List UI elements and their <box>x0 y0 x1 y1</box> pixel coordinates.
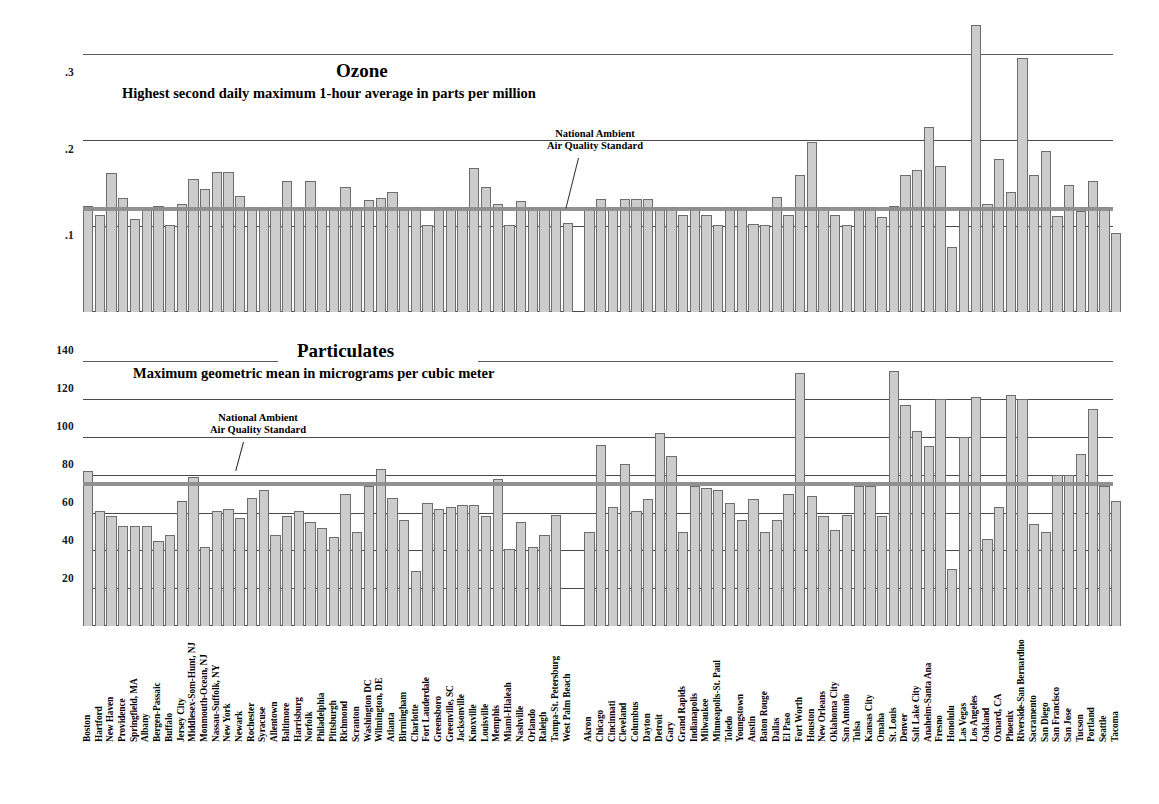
gridline-140 <box>83 361 1113 362</box>
category-label: Fort Worth <box>794 697 804 742</box>
bar <box>340 187 350 312</box>
bar <box>1111 501 1121 626</box>
bar <box>854 486 864 626</box>
category-label: Knoxville <box>468 704 478 742</box>
category-label: Kansas City <box>864 694 874 742</box>
category-label: Birmingham <box>398 692 408 742</box>
bar <box>912 431 922 626</box>
category-label: Seattle <box>1098 716 1108 742</box>
bar <box>411 207 421 312</box>
category-label: Cincinnati <box>607 701 617 742</box>
bar <box>188 179 198 312</box>
category-label: Tulsa <box>852 721 862 742</box>
category-label: Jacksonville <box>456 694 466 742</box>
category-label: Phoenix <box>1005 710 1015 742</box>
bar <box>481 516 491 626</box>
category-label: Gary <box>665 722 675 742</box>
category-label: Dallas <box>771 718 781 742</box>
category-label: Wilmington, DE <box>374 678 384 742</box>
category-label: New Haven <box>105 697 115 742</box>
bar <box>446 507 456 626</box>
category-label: Norfolk <box>304 711 314 742</box>
category-label: Providence <box>117 698 127 742</box>
bar <box>551 515 561 626</box>
category-label: Milwaukee <box>700 699 710 742</box>
part-ytick-120: 120 <box>28 383 74 395</box>
category-label: Dayton <box>642 713 652 742</box>
category-label: Columbus <box>630 702 640 742</box>
bar <box>247 498 257 626</box>
category-label: Orlando <box>527 709 537 742</box>
bar <box>118 198 128 312</box>
bar <box>982 204 992 312</box>
bar <box>212 172 222 312</box>
particulates-subtitle: Maximum geometric mean in micrograms per… <box>133 365 494 382</box>
part-ytick-80: 80 <box>28 459 74 471</box>
bar <box>106 173 116 312</box>
bar <box>422 225 432 312</box>
category-label: Austin <box>747 716 757 742</box>
category-label: San Antonio <box>841 694 851 742</box>
category-label: Greensboro <box>433 696 443 742</box>
ozone-ytick-1: .1 <box>40 230 74 242</box>
bar <box>1006 395 1016 626</box>
bar <box>422 503 432 626</box>
ozone-title: Ozone <box>336 60 388 82</box>
bar <box>1029 175 1039 312</box>
category-label: St. Louis <box>888 707 898 742</box>
bar <box>783 215 793 312</box>
category-label: New Orleans <box>817 691 827 742</box>
bar <box>830 215 840 312</box>
category-label: Washington DC <box>363 679 373 742</box>
bar <box>457 505 467 626</box>
bar <box>235 196 245 312</box>
bar <box>352 208 362 312</box>
ozone-panel: .3 .2 .1 Ozone Highest second daily maxi… <box>0 0 1159 330</box>
bar <box>212 511 222 626</box>
bar <box>539 208 549 312</box>
category-axis-labels: BostonHartfordNew HavenProvidenceSpringf… <box>83 612 1113 742</box>
bar <box>294 511 304 626</box>
bar <box>924 446 934 626</box>
bar <box>1052 475 1062 626</box>
category-label: Akron <box>583 717 593 742</box>
category-label: New York <box>222 703 232 742</box>
gridline-120 <box>83 399 1113 400</box>
category-label: Oxnard, CA <box>993 694 1003 742</box>
bar <box>528 208 538 312</box>
category-label: Louisville <box>480 704 490 742</box>
ozone-naaqs-line1: National Ambient <box>520 128 670 140</box>
category-label: Portland <box>1086 707 1096 742</box>
bar <box>340 494 350 626</box>
category-label: Buffalo <box>164 713 174 742</box>
category-label: El Paso <box>782 713 792 742</box>
category-label: Cleveland <box>618 703 628 742</box>
category-label: Raleigh <box>538 712 548 742</box>
bar <box>294 208 304 312</box>
category-label: Albany <box>140 713 150 742</box>
category-label: Detroit <box>654 714 664 742</box>
bar <box>748 499 758 626</box>
category-label: Minneapolis-St. Paul <box>712 660 722 742</box>
category-label: Pittsburgh <box>328 700 338 742</box>
bar <box>95 215 105 312</box>
category-label: Sacramento <box>1028 695 1038 742</box>
naaqs-reference-line <box>83 207 1113 211</box>
bar <box>376 469 386 626</box>
bar <box>666 207 676 312</box>
part-ytick-140: 140 <box>28 345 74 357</box>
bar <box>935 166 945 312</box>
part-naaqs-line2: Air Quality Standard <box>183 424 333 436</box>
bar <box>551 208 561 312</box>
category-label: Middlesex-Som-Hunt, NJ <box>187 642 197 742</box>
chart-page: .3 .2 .1 Ozone Highest second daily maxi… <box>0 0 1159 804</box>
bar <box>701 215 711 312</box>
category-label: Jersey City <box>176 698 186 742</box>
bar <box>1099 486 1109 626</box>
bar <box>772 520 782 626</box>
category-label: Denver <box>899 713 909 742</box>
bar <box>469 505 479 626</box>
bar <box>900 405 910 626</box>
bar <box>223 172 233 312</box>
bar <box>795 175 805 312</box>
